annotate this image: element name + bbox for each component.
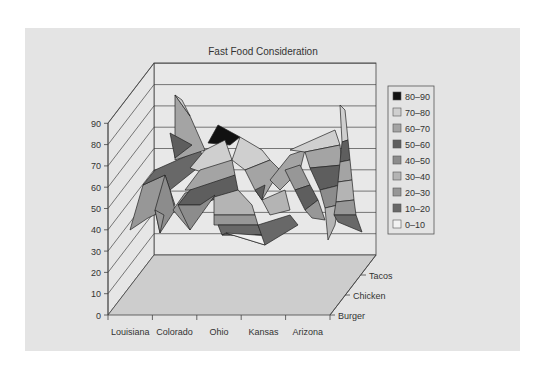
y-tick-label: 20	[91, 268, 101, 278]
legend-swatch	[393, 220, 401, 228]
legend-swatch	[393, 108, 401, 116]
y-tick-label: 40	[91, 225, 101, 235]
legend-swatch	[393, 172, 401, 180]
legend-swatch	[393, 204, 401, 212]
legend-label: 40–50	[405, 156, 430, 166]
legend-swatch	[393, 188, 401, 196]
x-tick-label: Louisiana	[111, 327, 150, 337]
chart-title: Fast Food Consideration	[208, 46, 318, 57]
depth-tick-label: Burger	[338, 311, 365, 321]
surface-chart: Fast Food Consideration 0102030405060708…	[0, 0, 545, 368]
legend-label: 70–80	[405, 108, 430, 118]
y-tick-label: 0	[96, 311, 101, 321]
legend-label: 20–30	[405, 188, 430, 198]
y-axis: 0102030405060708090	[91, 119, 108, 321]
legend-swatch	[393, 124, 401, 132]
x-tick-label: Kansas	[248, 327, 279, 337]
x-tick-label: Colorado	[156, 327, 193, 337]
legend-label: 10–20	[405, 204, 430, 214]
y-tick-label: 30	[91, 247, 101, 257]
x-tick-label: Ohio	[209, 327, 228, 337]
legend-label: 50–60	[405, 140, 430, 150]
legend-swatch	[393, 140, 401, 148]
legend: 80–9070–8060–7050–6040–5030–4020–3010–20…	[388, 86, 434, 234]
legend-swatch	[393, 156, 401, 164]
x-axis: LouisianaColoradoOhioKansasArizona	[108, 315, 330, 337]
legend-label: 30–40	[405, 172, 430, 182]
legend-label: 60–70	[405, 124, 430, 134]
x-tick-label: Arizona	[293, 327, 324, 337]
y-tick-label: 50	[91, 204, 101, 214]
floor	[108, 255, 376, 315]
y-tick-label: 90	[91, 119, 101, 129]
y-tick-label: 10	[91, 289, 101, 299]
y-tick-label: 80	[91, 140, 101, 150]
depth-tick-label: Chicken	[353, 291, 386, 301]
y-tick-label: 70	[91, 161, 101, 171]
y-tick-label: 60	[91, 183, 101, 193]
depth-tick-label: Tacos	[369, 271, 393, 281]
legend-label: 80–90	[405, 92, 430, 102]
legend-label: 0–10	[405, 220, 425, 230]
legend-swatch	[393, 92, 401, 100]
